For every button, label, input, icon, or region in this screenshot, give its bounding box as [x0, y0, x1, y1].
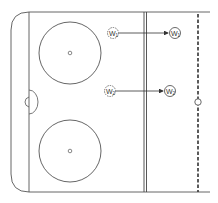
blue-line — [144, 12, 147, 192]
hockey-rink-diagram: W1 W1 W2 W2 — [0, 0, 218, 203]
faceoff-dot-top — [68, 51, 72, 55]
goal-crease — [25, 90, 38, 114]
faceoff-dot-bottom — [68, 149, 72, 153]
rink-boards — [11, 12, 210, 192]
faceoff-circle-top — [39, 22, 101, 84]
faceoff-circle-bottom — [39, 120, 101, 182]
player-w2: W2 W2 — [105, 86, 176, 97]
center-faceoff-dot — [195, 99, 201, 105]
